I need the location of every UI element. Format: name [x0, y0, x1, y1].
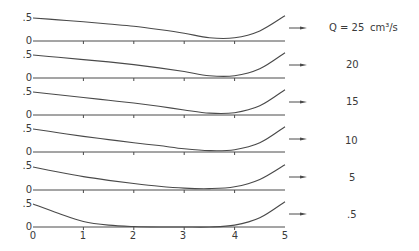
- data-curve: [33, 127, 285, 151]
- x-tick-5: 5: [282, 231, 288, 241]
- x-tick-1: 1: [80, 231, 86, 241]
- arrowhead-icon: [300, 64, 307, 67]
- y-tick-half-p1: .5: [18, 13, 32, 23]
- legend-q5: 5: [349, 173, 355, 183]
- arrowhead-icon: [300, 176, 307, 179]
- legend-q25: Q = 25: [329, 23, 364, 33]
- x-tick-3: 3: [180, 231, 186, 241]
- arrowhead-icon: [300, 27, 307, 30]
- legend-unit: cm³/s: [370, 23, 398, 33]
- data-curve: [33, 202, 285, 227]
- y-tick-zero-p1: 0: [18, 36, 32, 46]
- x-tick-0: 0: [30, 231, 36, 241]
- data-curve: [33, 16, 285, 39]
- arrowhead-icon: [300, 101, 307, 104]
- y-tick-half-p5: .5: [18, 161, 32, 171]
- data-curve: [33, 53, 285, 77]
- arrowhead-icon: [300, 213, 307, 216]
- y-tick-half-p2: .5: [18, 50, 32, 60]
- y-tick-zero-p4: 0: [18, 147, 32, 157]
- y-tick-zero-p2: 0: [18, 73, 32, 83]
- arrowhead-icon: [300, 138, 307, 141]
- data-curve: [33, 165, 285, 189]
- y-tick-half-p6: .5: [18, 199, 32, 209]
- legend-q20: 20: [346, 60, 359, 70]
- legend-q05: .5: [347, 210, 357, 220]
- y-tick-zero-p3: 0: [18, 110, 32, 120]
- legend-q15: 15: [346, 97, 359, 107]
- y-tick-half-p3: .5: [18, 87, 32, 97]
- y-tick-half-p4: .5: [18, 124, 32, 134]
- legend-q10: 10: [345, 136, 358, 146]
- x-tick-4: 4: [232, 231, 238, 241]
- data-curve: [33, 90, 285, 114]
- y-tick-zero-p5: 0: [18, 185, 32, 195]
- x-tick-2: 2: [130, 231, 136, 241]
